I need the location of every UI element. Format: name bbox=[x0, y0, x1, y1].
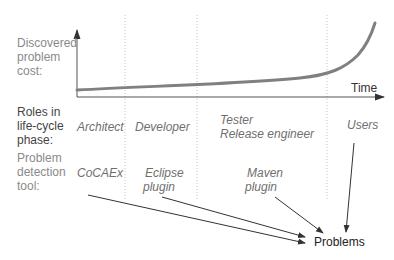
tool-cocaex: CoCAEx bbox=[77, 166, 123, 180]
arrow-maven-problems bbox=[275, 197, 323, 233]
x-axis-label: Time bbox=[351, 81, 377, 95]
tools-label-line-3: tool: bbox=[17, 179, 66, 193]
tools-label-line-2: detection bbox=[17, 165, 66, 179]
y-label-line-3: cost: bbox=[17, 64, 77, 78]
role-release-engineer: Release engineer bbox=[220, 127, 314, 141]
arrow-users-problems bbox=[346, 143, 354, 232]
role-developer: Developer bbox=[135, 120, 190, 134]
roles-label-line-2: life-cycle bbox=[17, 119, 64, 133]
role-users: Users bbox=[347, 118, 378, 132]
roles-label-line-3: phase: bbox=[17, 133, 64, 147]
tool-eclipse-line-2: plugin bbox=[143, 180, 175, 194]
problems-target: Problems bbox=[314, 235, 365, 249]
tool-maven-line-2: plugin bbox=[245, 180, 277, 194]
y-label-line-1: Discovered bbox=[17, 36, 77, 50]
tool-maven-line-1: Maven bbox=[247, 166, 283, 180]
tools-label-line-1: Problem bbox=[17, 151, 66, 165]
tools-row-label: Problem detection tool: bbox=[17, 151, 66, 193]
y-label-line-2: problem bbox=[17, 50, 77, 64]
cost-curve bbox=[77, 23, 375, 90]
roles-row-label: Roles in life-cycle phase: bbox=[17, 105, 64, 147]
tool-arrows bbox=[88, 143, 354, 243]
role-tester: Tester bbox=[220, 113, 253, 127]
roles-label-line-1: Roles in bbox=[17, 105, 64, 119]
y-axis-label: Discovered problem cost: bbox=[17, 36, 77, 78]
tool-eclipse-line-1: Eclipse bbox=[145, 166, 184, 180]
arrow-cocaex-problems bbox=[88, 195, 305, 243]
role-architect: Architect bbox=[77, 120, 124, 134]
